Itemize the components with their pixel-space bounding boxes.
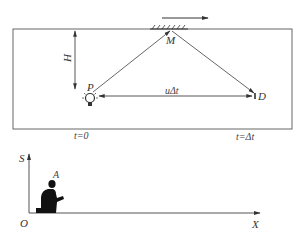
label-d: D [257,90,266,102]
label-t0: t=0 [74,130,89,141]
light-bulb-icon [82,93,98,106]
label-a: A [52,169,60,180]
label-o: O [20,217,28,229]
label-m: M [165,34,176,46]
relativity-light-clock-diagram: M P D H uΔt t=0 t=Δt S O X A [0,0,303,234]
ray-p-to-m [93,31,170,92]
label-h: H [61,53,73,63]
label-p: P [86,81,94,93]
label-s: S [19,152,25,164]
label-x: X [251,218,260,230]
label-displacement: uΔt [165,85,179,96]
label-tdt: t=Δt [236,131,254,142]
observer-icon [36,180,64,213]
moving-frame-box [13,29,292,129]
ray-m-to-d [172,31,254,93]
mirror-icon [150,25,188,29]
